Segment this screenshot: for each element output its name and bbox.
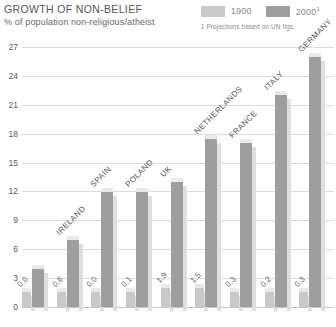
bar-face: [205, 139, 217, 307]
y-axis-tick-label: 27: [0, 42, 18, 52]
bar-top-face: [57, 288, 66, 292]
bar-group: NETHERLANDS1.5: [195, 47, 230, 307]
bar-face: [240, 143, 252, 307]
bar-category-label: FRANCE: [228, 109, 259, 140]
bar-group: GERMANY0.3: [299, 47, 334, 307]
bar-face: [171, 182, 183, 307]
bar-2000: [205, 139, 217, 307]
chart-plot-area: 0.0IRELAND0.6SPAIN0.0POLAND0.1UK1.9NETHE…: [22, 47, 334, 307]
bar-1900: [126, 292, 135, 307]
bar-top-face: [171, 178, 183, 182]
bar-2000: [171, 182, 183, 307]
bar-1900: [57, 292, 66, 307]
y-axis-tick-label: 24: [0, 71, 18, 81]
bar-top-face: [32, 265, 44, 269]
y-axis-tick-label: 6: [0, 244, 18, 254]
bar-group: POLAND0.1: [126, 47, 161, 307]
bar-side-shadow: [321, 61, 325, 311]
bar-2000: [275, 95, 287, 307]
bar-side-shadow: [252, 147, 256, 311]
legend-label-2000: 20001: [296, 6, 320, 17]
bar-category-label: IRELAND: [54, 204, 87, 237]
bar-face: [299, 292, 308, 307]
bar-1900: [265, 292, 274, 307]
bar-top-face: [240, 139, 252, 143]
bar-face: [309, 57, 321, 307]
bar-top-face: [126, 288, 135, 292]
bar-top-face: [299, 288, 308, 292]
bar-face: [195, 288, 204, 307]
bar-1900: [22, 292, 31, 307]
bar-top-face: [101, 188, 113, 192]
bar-group: UK1.9: [161, 47, 196, 307]
bar-top-face: [205, 135, 217, 139]
bar-top-face: [136, 188, 148, 192]
bar-2000: [101, 192, 113, 307]
bar-group: SPAIN0.0: [91, 47, 126, 307]
bar-side-shadow: [79, 244, 83, 311]
bar-2000: [67, 240, 79, 307]
legend-swatch-1900: [201, 6, 225, 17]
bar-2000: [309, 57, 321, 307]
bar-top-face: [265, 288, 274, 292]
bar-1900: [91, 292, 100, 307]
bar-face: [275, 95, 287, 307]
bar-side-shadow: [287, 99, 291, 311]
bar-side-shadow: [217, 143, 221, 311]
legend-label-1900: 1900: [231, 6, 252, 16]
bar-groups: 0.0IRELAND0.6SPAIN0.0POLAND0.1UK1.9NETHE…: [22, 47, 334, 307]
bar-top-face: [275, 91, 287, 95]
y-axis-tick-label: 12: [0, 186, 18, 196]
y-axis-tick-label: 15: [0, 158, 18, 168]
bar-1900: [161, 288, 170, 307]
bar-category-label: UK: [158, 164, 173, 179]
bar-2000: [136, 192, 148, 307]
bar-face: [22, 292, 31, 307]
bar-top-face: [195, 284, 204, 288]
bar-group: 0.0: [22, 47, 57, 307]
bar-1900: [195, 288, 204, 307]
bar-2000: [240, 143, 252, 307]
bar-top-face: [22, 288, 31, 292]
bar-face: [161, 288, 170, 307]
bar-category-label: POLAND: [124, 157, 155, 188]
legend-entries: 1900 20001: [201, 4, 334, 18]
bar-group: ITALY0.2: [265, 47, 300, 307]
bar-face: [230, 292, 239, 307]
bar-top-face: [161, 284, 170, 288]
bar-1900: [299, 292, 308, 307]
bar-face: [57, 292, 66, 307]
bar-face: [32, 269, 44, 307]
bar-side-shadow: [44, 273, 48, 311]
bar-side-shadow: [183, 186, 187, 311]
bar-category-label: SPAIN: [89, 164, 113, 188]
bar-top-face: [309, 53, 321, 57]
bar-face: [91, 292, 100, 307]
bar-group: FRANCE0.3: [230, 47, 265, 307]
bar-side-shadow: [148, 196, 152, 311]
y-axis-tick-label: 18: [0, 129, 18, 139]
bar-face: [126, 292, 135, 307]
y-axis-tick-label: 3: [0, 273, 18, 283]
bar-face: [101, 192, 113, 307]
bar-group: IRELAND0.6: [57, 47, 92, 307]
legend-swatch-2000: [266, 6, 290, 17]
y-axis-tick-label: 9: [0, 215, 18, 225]
bar-side-shadow: [113, 196, 117, 311]
bar-face: [67, 240, 79, 307]
bar-top-face: [230, 288, 239, 292]
bar-category-label: ITALY: [262, 69, 285, 92]
bar-face: [136, 192, 148, 307]
bar-top-face: [67, 236, 79, 240]
y-axis-tick-label: 0: [0, 302, 18, 312]
bar-2000: [32, 269, 44, 307]
bar-top-face: [91, 288, 100, 292]
bar-face: [265, 292, 274, 307]
bar-1900: [230, 292, 239, 307]
chart-legend: 1900 20001 1 Projections based on UN fig…: [201, 4, 334, 30]
y-axis-tick-label: 21: [0, 100, 18, 110]
